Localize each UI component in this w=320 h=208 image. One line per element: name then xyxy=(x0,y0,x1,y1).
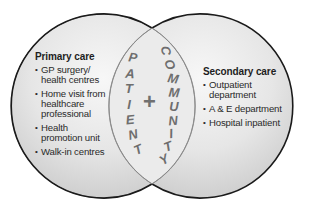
primary-care-title: Primary care xyxy=(35,52,111,62)
list-item: Hospital inpatient xyxy=(203,118,293,128)
secondary-care-panel: Secondary care Outpatient department A &… xyxy=(203,67,293,132)
primary-care-list: GP surgery/ health centres Home visit fr… xyxy=(35,65,111,157)
letter: A xyxy=(122,66,137,82)
list-item: A & E department xyxy=(203,104,293,114)
primary-care-panel: Primary care GP surgery/ health centres … xyxy=(35,52,111,161)
list-item: GP surgery/ health centres xyxy=(35,65,111,85)
plus-symbol: + xyxy=(143,92,156,112)
secondary-care-title: Secondary care xyxy=(203,67,293,77)
secondary-care-list: Outpatient department A & E department H… xyxy=(203,80,293,128)
list-item: Health promotion unit xyxy=(35,123,111,143)
letter: T xyxy=(122,81,136,96)
list-item: Walk-in centres xyxy=(35,147,111,157)
list-item: Home visit from healthcare professional xyxy=(35,89,111,119)
letter: I xyxy=(122,97,136,112)
list-item: Outpatient department xyxy=(203,80,293,100)
letter: P xyxy=(125,49,141,66)
